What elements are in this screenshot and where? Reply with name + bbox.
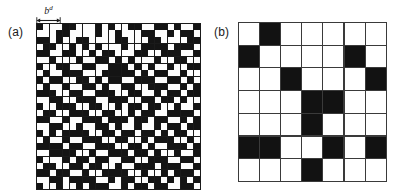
lattice-a-cell [43, 37, 49, 43]
lattice-a-cell [43, 90, 49, 96]
lattice-a-cell [122, 123, 128, 129]
lattice-a-cell [135, 50, 141, 56]
lattice-a-cell [50, 103, 56, 109]
lattice-a-cell [115, 70, 121, 76]
lattice-b-cell [323, 137, 343, 159]
lattice-a-cell [155, 150, 161, 156]
box-size-exponent: d [49, 4, 53, 12]
lattice-a-cell [161, 163, 167, 169]
lattice-a-cell [96, 143, 102, 149]
lattice-a-cell [102, 50, 108, 56]
lattice-a-cell [168, 84, 174, 90]
lattice-a-cell [174, 97, 180, 103]
lattice-a-cell [83, 123, 89, 129]
lattice-a-cell [135, 183, 141, 189]
lattice-a-cell [115, 97, 121, 103]
lattice-a-cell [56, 90, 62, 96]
lattice-a-cell [168, 183, 174, 189]
lattice-a-cell [187, 50, 193, 56]
lattice-a-cell [187, 157, 193, 163]
lattice-a-cell [63, 123, 69, 129]
lattice-a-cell [43, 130, 49, 136]
lattice-a-cell [37, 77, 43, 83]
lattice-a-cell [76, 137, 82, 143]
lattice-a-cell [56, 170, 62, 176]
lattice-a-cell [76, 57, 82, 63]
lattice-a-cell [109, 150, 115, 156]
lattice-b-cell [345, 46, 365, 68]
lattice-a-cell [109, 50, 115, 56]
lattice-a-cell [76, 70, 82, 76]
lattice-a-cell [115, 103, 121, 109]
lattice-a-cell [63, 170, 69, 176]
lattice-a-cell [161, 77, 167, 83]
lattice-a-cell [148, 97, 154, 103]
lattice-a-cell [187, 177, 193, 183]
lattice-b-cell [345, 23, 365, 45]
lattice-a-cell [102, 103, 108, 109]
lattice-a-cell [115, 183, 121, 189]
lattice-a-cell [122, 130, 128, 136]
lattice-a-cell [148, 103, 154, 109]
lattice-b-cell [323, 159, 343, 181]
lattice-a-cell [37, 177, 43, 183]
lattice-a-cell [155, 97, 161, 103]
lattice-a-cell [174, 143, 180, 149]
lattice-a-cell [148, 177, 154, 183]
lattice-a-cell [142, 110, 148, 116]
lattice-a-cell [122, 117, 128, 123]
lattice-a-cell [37, 30, 43, 36]
lattice-a-cell [70, 143, 76, 149]
lattice-a-cell [174, 123, 180, 129]
lattice-a-cell [102, 57, 108, 63]
lattice-b-cell [239, 68, 259, 90]
lattice-b-cell [281, 23, 301, 45]
lattice-a-cell [128, 150, 134, 156]
lattice-a-cell [96, 70, 102, 76]
lattice-a-cell [50, 24, 56, 30]
lattice-b-cell [366, 114, 386, 136]
lattice-a-cell [115, 177, 121, 183]
lattice-a-cell [70, 110, 76, 116]
lattice-a-cell [148, 57, 154, 63]
lattice-a-cell [115, 57, 121, 63]
lattice-a-cell [96, 64, 102, 70]
lattice-a-cell [76, 130, 82, 136]
lattice-a-cell [83, 90, 89, 96]
lattice-a-cell [181, 170, 187, 176]
lattice-a-cell [168, 50, 174, 56]
lattice-b-cell [281, 114, 301, 136]
lattice-a-cell [76, 103, 82, 109]
lattice-a-cell [174, 90, 180, 96]
lattice-a-cell [70, 103, 76, 109]
lattice-a-cell [50, 30, 56, 36]
lattice-a-cell [115, 150, 121, 156]
lattice-a-cell [43, 170, 49, 176]
lattice-a-cell [56, 110, 62, 116]
lattice-a-cell [50, 70, 56, 76]
lattice-a-cell [76, 97, 82, 103]
lattice-a-cell [168, 37, 174, 43]
lattice-a-cell [122, 50, 128, 56]
lattice-a-cell [43, 70, 49, 76]
lattice-a-cell [83, 84, 89, 90]
lattice-a-cell [37, 123, 43, 129]
lattice-a-cell [96, 163, 102, 169]
lattice-a-cell [174, 50, 180, 56]
lattice-a-cell [109, 64, 115, 70]
lattice-a-cell [128, 110, 134, 116]
lattice-a-cell [128, 44, 134, 50]
lattice-a-cell [174, 103, 180, 109]
lattice-a-cell [128, 183, 134, 189]
lattice-b-cell [345, 159, 365, 181]
lattice-a-cell [56, 177, 62, 183]
lattice-a-cell [37, 137, 43, 143]
lattice-a-cell [142, 64, 148, 70]
lattice-a-cell [56, 163, 62, 169]
lattice-a-cell [83, 77, 89, 83]
lattice-a-cell [122, 170, 128, 176]
lattice-a-cell [187, 77, 193, 83]
lattice-a-cell [161, 117, 167, 123]
lattice-a-cell [56, 157, 62, 163]
lattice-a-cell [70, 70, 76, 76]
